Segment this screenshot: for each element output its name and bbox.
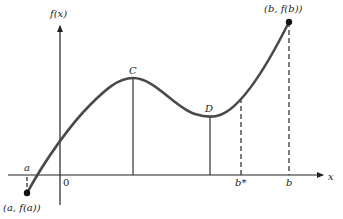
a-label: a <box>24 162 30 173</box>
b-label: b <box>286 177 292 188</box>
start-point-label: (a, f(a)) <box>3 202 41 213</box>
y-axis-label: f(x) <box>49 8 67 19</box>
point-c-label: C <box>129 65 137 76</box>
function-curve <box>27 22 289 193</box>
start-point <box>24 190 30 196</box>
b-star-label: b* <box>235 177 246 188</box>
point-d-label: D <box>204 103 213 114</box>
function-graph-diagram: f(x) x 0 C D a b* b (a, f(a)) (b, f(b)) <box>0 0 343 219</box>
end-point-label: (b, f(b)) <box>264 3 303 14</box>
end-point <box>286 19 292 25</box>
x-axis-label: x <box>328 171 334 182</box>
origin-label: 0 <box>63 177 69 188</box>
